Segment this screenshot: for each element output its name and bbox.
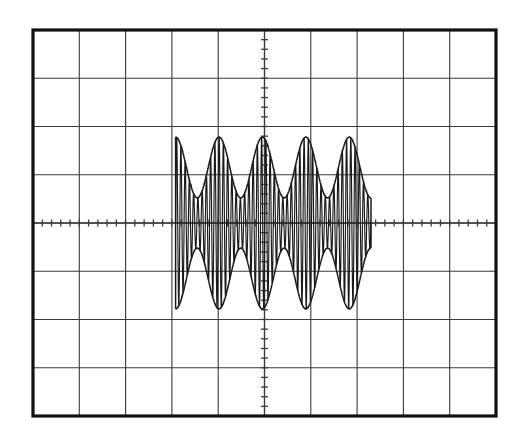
oscilloscope-figure [0, 0, 520, 441]
display-background [0, 0, 520, 441]
oscilloscope-display [0, 0, 520, 441]
